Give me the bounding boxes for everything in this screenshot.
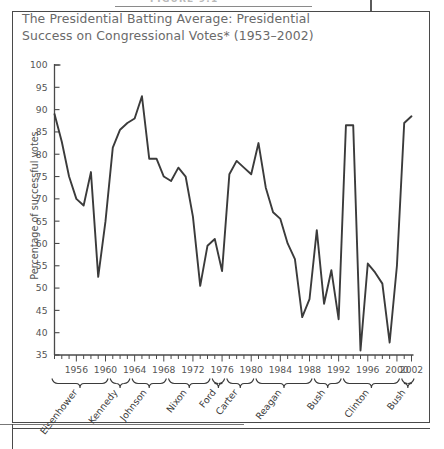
- figure-bottom-rule: [12, 428, 430, 429]
- footer-rule: [0, 424, 244, 425]
- figure-border-box: [12, 11, 430, 423]
- figure-number-label: FIGURE 9.1: [150, 0, 218, 4]
- figure-caption-rule: [115, 6, 312, 7]
- left-margin-rule: [12, 424, 13, 449]
- y-axis-title: Percentage of successful votes: [29, 106, 40, 306]
- figure-page: FIGURE 9.1 The Presidential Batting Aver…: [0, 0, 444, 449]
- chart-title: The Presidential Batting Average: Presid…: [22, 10, 352, 44]
